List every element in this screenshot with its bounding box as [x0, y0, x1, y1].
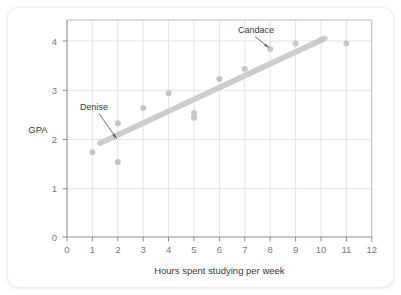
x-tick-label: 12	[367, 244, 378, 255]
data-point	[115, 120, 121, 126]
data-point	[89, 149, 95, 155]
x-axis-tick-labels: 0 1 2 3 4 5 6 7 8 9 10 11 12	[64, 244, 377, 255]
data-point	[191, 110, 197, 116]
data-point	[318, 37, 324, 43]
y-tick-label: 3	[52, 85, 57, 96]
x-tick-label: 3	[141, 244, 146, 255]
data-point	[216, 76, 222, 82]
x-tick-label: 0	[64, 244, 69, 255]
annotation-label: Denise	[80, 102, 108, 112]
annotation-candace: Candace	[238, 25, 274, 47]
x-tick-label: 5	[191, 244, 196, 255]
x-tick-label: 4	[166, 244, 171, 255]
data-point	[166, 90, 172, 96]
trendline	[100, 38, 325, 143]
x-tick-label: 6	[217, 244, 222, 255]
x-axis-title: Hours spent studying per week	[154, 265, 285, 276]
data-point	[343, 41, 349, 47]
y-axis-title: GPA	[28, 124, 48, 135]
y-tick-label: 1	[52, 183, 57, 194]
annotation-label: Candace	[238, 25, 274, 35]
plot-canvas: 0 1 2 3 4 0 1 2 3 4 5 6 7 8 9 10 11 12 H…	[0, 0, 401, 295]
x-tick-label: 10	[316, 244, 327, 255]
annotation-denise: Denise	[80, 102, 117, 139]
x-tick-label: 7	[242, 244, 247, 255]
y-axis-tick-labels: 0 1 2 3 4	[52, 36, 57, 243]
data-point	[115, 159, 121, 165]
y-axis-ticks	[63, 41, 68, 237]
x-axis-ticks	[67, 237, 372, 242]
data-point	[242, 66, 248, 72]
x-tick-label: 1	[90, 244, 95, 255]
data-point	[293, 41, 299, 47]
scatter-chart-figure: 0 1 2 3 4 0 1 2 3 4 5 6 7 8 9 10 11 12 H…	[0, 0, 401, 295]
y-tick-label: 0	[52, 232, 57, 243]
x-tick-label: 11	[341, 244, 351, 255]
y-tick-label: 4	[52, 36, 57, 47]
x-tick-label: 9	[293, 244, 298, 255]
y-tick-label: 2	[52, 134, 57, 145]
x-tick-label: 2	[115, 244, 120, 255]
x-tick-label: 8	[268, 244, 273, 255]
data-point	[140, 105, 146, 111]
